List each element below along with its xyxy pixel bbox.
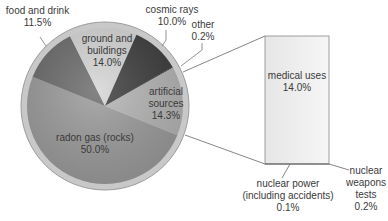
label-text: other xyxy=(188,19,218,31)
label-ground-and-buildings: ground and buildings 14.0% xyxy=(74,33,140,69)
label-text: buildings xyxy=(74,45,140,57)
label-text: artificial xyxy=(138,86,194,98)
label-value: 14.3% xyxy=(138,110,194,122)
leader-other xyxy=(181,43,202,66)
label-radon-gas: radon gas (rocks) 50.0% xyxy=(47,132,143,156)
label-nuclear-weapons-tests: nuclear weapons tests 0.2% xyxy=(344,165,388,213)
connector-bottom xyxy=(185,135,265,164)
label-value: 0.2% xyxy=(188,31,218,43)
label-value: 11.5% xyxy=(0,17,75,29)
label-value: 0.1% xyxy=(242,202,334,214)
label-medical-uses: medical uses 14.0% xyxy=(265,70,329,94)
label-text: tests xyxy=(344,189,388,201)
label-text: (including accidents) xyxy=(242,190,334,202)
label-text: sources xyxy=(138,98,194,110)
label-other: other 0.2% xyxy=(188,19,218,43)
label-artificial-sources: artificial sources 14.3% xyxy=(138,86,194,122)
label-value: 14.0% xyxy=(74,57,140,69)
label-text: nuclear xyxy=(344,165,388,177)
label-value: 14.0% xyxy=(265,82,329,94)
label-value: 0.2% xyxy=(344,201,388,213)
label-text: cosmic rays xyxy=(142,4,202,16)
label-text: weapons xyxy=(344,177,388,189)
leader-food xyxy=(40,37,46,46)
leader-cosmic xyxy=(162,30,166,46)
leader-power xyxy=(282,164,290,178)
label-text: nuclear power xyxy=(242,178,334,190)
label-text: ground and xyxy=(74,33,140,45)
breakdown-bar xyxy=(265,36,329,164)
label-food-and-drink: food and drink 11.5% xyxy=(0,5,75,29)
label-text: medical uses xyxy=(265,70,329,82)
label-value: 50.0% xyxy=(47,144,143,156)
label-text: radon gas (rocks) xyxy=(47,132,143,144)
label-nuclear-power: nuclear power (including accidents) 0.1% xyxy=(242,178,334,214)
label-text: food and drink xyxy=(0,5,75,17)
